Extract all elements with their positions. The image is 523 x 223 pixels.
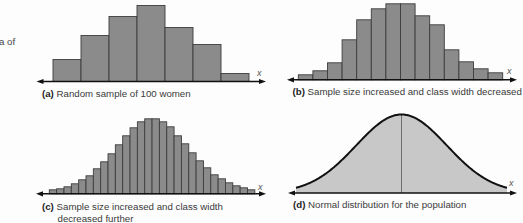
caption-b: (b) Sample size increased and class widt… <box>293 86 522 98</box>
histogram-bar <box>79 180 86 194</box>
x-axis-arrow-right-icon <box>510 77 517 82</box>
histogram-bar <box>298 75 313 80</box>
histogram-bar <box>444 50 459 80</box>
histogram-bar <box>159 122 166 194</box>
histogram-bar <box>108 154 115 194</box>
histogram-bar <box>137 122 144 194</box>
caption-a: (a) Random sample of 100 women <box>42 88 191 100</box>
histogram-bar <box>86 176 93 194</box>
panel-c-histogram: x <box>36 119 266 197</box>
histogram-bar <box>225 183 232 194</box>
histogram-bar <box>357 20 372 80</box>
histogram-bar <box>64 187 71 194</box>
histogram-bar <box>53 60 81 82</box>
caption-line-1: (c) Sample size increased and class widt… <box>42 201 223 213</box>
x-axis-arrow-left-icon <box>288 190 295 195</box>
histogram-bar <box>189 153 196 194</box>
histogram-bar <box>152 119 159 194</box>
x-axis-label: x <box>506 66 512 76</box>
histogram-bar <box>137 6 165 82</box>
histogram-bar <box>81 36 109 82</box>
histogram-bar <box>430 25 445 80</box>
caption-c: (c) Sample size increased and class widt… <box>42 201 223 223</box>
histogram-bar <box>415 16 430 80</box>
histogram-bar <box>371 9 386 80</box>
caption-d: (d) Normal distribution for the populati… <box>293 199 466 211</box>
x-axis-arrow-left-icon <box>37 79 44 84</box>
x-axis-label: x <box>257 182 263 192</box>
caption-tag: (c) <box>42 201 54 212</box>
caption-text: Sample size increased and class width de… <box>308 86 522 97</box>
histogram-bar <box>101 162 108 194</box>
x-axis-arrow-right-icon <box>510 190 517 195</box>
figure-histograms-to-normal: a of x x x x (a) Random sample of 100 wo… <box>0 0 523 223</box>
histogram-bar <box>328 63 343 80</box>
x-axis-arrow-right-icon <box>259 79 266 84</box>
panel-a-histogram: x <box>37 6 267 85</box>
histogram-bar <box>115 145 122 194</box>
caption-tag: (a) <box>42 88 54 99</box>
histogram-bar <box>342 40 357 80</box>
histogram-bar <box>57 189 64 194</box>
histogram-bar <box>240 188 247 194</box>
histogram-bar <box>165 28 193 82</box>
figure-graphics: x x x x <box>0 0 523 223</box>
histogram-bar <box>193 45 221 82</box>
histogram-bar <box>145 119 152 194</box>
x-axis-arrow-left-icon <box>36 191 43 196</box>
x-axis-label: x <box>508 178 514 188</box>
histogram-bar <box>233 186 240 194</box>
caption-tag: (d) <box>293 199 305 210</box>
caption-text: Normal distribution for the population <box>308 199 466 210</box>
histogram-bar <box>93 169 100 194</box>
panel-d-normal-curve: x <box>288 115 517 196</box>
panel-b-histogram: x <box>287 4 517 83</box>
histogram-bar <box>130 128 137 194</box>
histogram-bar <box>196 161 203 194</box>
histogram-bar <box>167 127 174 194</box>
histogram-bar <box>459 62 474 80</box>
histogram-bar <box>71 184 78 194</box>
x-axis-arrow-left-icon <box>287 77 294 82</box>
histogram-bar <box>211 175 218 194</box>
histogram-bar <box>488 73 503 80</box>
histogram-bar <box>386 4 401 80</box>
histogram-bar <box>218 179 225 194</box>
caption-text: Random sample of 100 women <box>57 88 191 99</box>
histogram-bar <box>123 136 130 194</box>
histogram-bar <box>174 136 181 194</box>
histogram-bar <box>203 168 210 194</box>
histogram-bar <box>401 4 416 80</box>
caption-text: Sample size increased and class width <box>57 201 223 212</box>
histogram-bar <box>181 144 188 194</box>
caption-line-2: decreased further <box>42 213 223 223</box>
histogram-bar <box>221 74 249 82</box>
histogram-bar <box>313 71 328 80</box>
x-axis-label: x <box>256 68 262 78</box>
histogram-bar <box>474 69 489 80</box>
caption-tag: (b) <box>293 86 305 97</box>
x-axis-arrow-right-icon <box>259 191 266 196</box>
histogram-bar <box>109 17 137 82</box>
